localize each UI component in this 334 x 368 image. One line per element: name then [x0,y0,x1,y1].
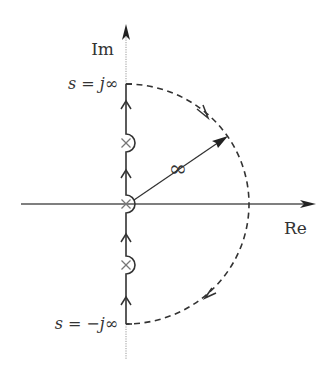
pole-lower-icon [122,261,131,270]
label-s-equals-minus-j-infinity: s=−j∞ [55,314,118,333]
label-top-rhs: j∞ [97,74,118,93]
label-bottom-rhs: −j∞ [86,314,118,333]
pole-upper-icon [122,139,131,148]
label-top-lhs: s [68,74,76,93]
arc-arrow-lower-icon [205,288,216,298]
real-axis-label: Re [284,218,307,238]
radius-arrowhead [212,136,228,148]
nyquist-contour-diagram: ∞ Im Re s=j∞ s=−j∞ [0,0,334,368]
label-top-eq: = [81,74,94,93]
label-bottom-lhs: s [55,314,63,333]
label-s-equals-j-infinity: s=j∞ [68,74,118,93]
svg-text:s=−j∞: s=−j∞ [55,314,118,333]
svg-text:s=j∞: s=j∞ [68,74,118,93]
label-bottom-eq: = [68,314,81,333]
imag-axis-label: Im [91,39,114,59]
radius-label: ∞ [169,156,187,181]
